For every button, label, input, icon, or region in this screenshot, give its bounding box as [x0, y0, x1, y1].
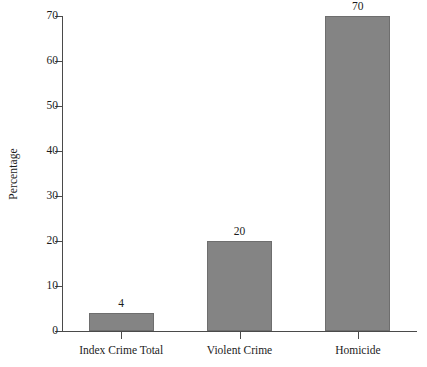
x-tick-label: Violent Crime	[207, 342, 272, 358]
x-tick-label: Homicide	[335, 342, 380, 358]
bar-chart: Percentage 010203040506070 Index Crime T…	[0, 0, 427, 367]
bar-value-label: 70	[352, 0, 364, 13]
bar-value-label: 20	[234, 224, 246, 238]
y-axis-title-text: Percentage	[7, 129, 19, 219]
y-tick-label: 20	[47, 233, 59, 248]
y-tick-label: 10	[47, 278, 59, 293]
y-tick-label: 50	[47, 98, 59, 113]
y-tick-label: 40	[47, 143, 59, 158]
bar	[89, 313, 154, 331]
bar-value-label: 4	[118, 296, 124, 310]
y-axis-title: Percentage	[0, 0, 18, 367]
y-axis-line	[62, 16, 63, 332]
y-tick-label: 60	[47, 53, 59, 68]
x-tick-mark	[358, 332, 359, 339]
bar	[207, 241, 272, 331]
x-tick-mark	[240, 332, 241, 339]
y-tick-label: 30	[47, 188, 59, 203]
x-tick-label: Index Crime Total	[79, 342, 163, 358]
bar	[325, 16, 390, 331]
plot-area: 010203040506070 Index Crime TotalViolent…	[62, 16, 417, 332]
y-tick-label: 0	[52, 323, 58, 338]
x-tick-mark	[121, 332, 122, 339]
y-tick-label: 70	[47, 8, 59, 23]
